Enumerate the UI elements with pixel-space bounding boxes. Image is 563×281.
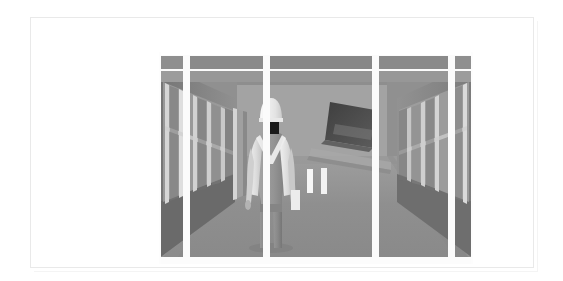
left-inner-partition: [233, 108, 247, 200]
page-root: [0, 0, 563, 281]
plate-frame: [30, 17, 534, 268]
ceiling-beam-bands: [159, 52, 473, 82]
scene-svg: [159, 52, 473, 264]
carried-object: [291, 190, 300, 210]
corridor-3d-render: [159, 52, 473, 264]
